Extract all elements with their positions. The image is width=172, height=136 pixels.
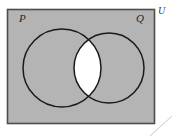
- set-p-label: P: [19, 13, 26, 24]
- venn-diagram-figure: P Q U: [0, 0, 172, 136]
- set-q-label: Q: [136, 13, 144, 24]
- universal-set-label: U: [158, 6, 165, 16]
